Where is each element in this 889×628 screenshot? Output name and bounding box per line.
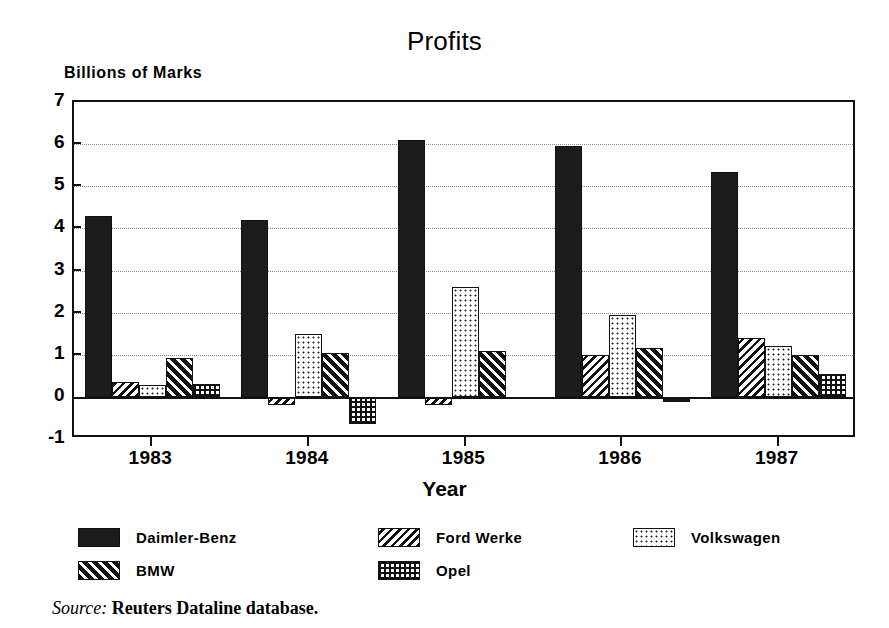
bar-1986-bmw (636, 348, 663, 396)
bar-1984-daimler-benz (241, 220, 268, 397)
source-text: Reuters Dataline database. (107, 598, 318, 618)
y-axis-tick-label: 2 (18, 300, 64, 322)
chart-legend: Daimler-BenzFord WerkeVolkswagenBMWOpel (78, 528, 778, 590)
x-axis-tick-mark (777, 437, 779, 446)
bar-1985-volkswagen (452, 287, 479, 397)
bar-1987-volkswagen (765, 346, 792, 397)
x-axis-tick-label: 1985 (419, 447, 509, 469)
bar-1983-opel (193, 384, 220, 397)
bar-1983-bmw (166, 358, 193, 397)
legend-item-bmw[interactable]: BMW (78, 561, 175, 580)
legend-label: BMW (136, 562, 175, 579)
legend-swatch-icon (78, 528, 120, 547)
bar-1983-ford-werke (112, 382, 139, 397)
y-axis-tick-label: 6 (18, 131, 64, 153)
bar-1987-bmw (792, 355, 819, 397)
source-note: Source: Reuters Dataline database. (52, 598, 318, 619)
bar-1984-volkswagen (295, 334, 322, 397)
legend-swatch-icon (633, 528, 675, 547)
legend-label: Opel (436, 562, 471, 579)
bar-1987-daimler-benz (711, 172, 738, 397)
bar-1987-ford-werke (738, 338, 765, 397)
bar-1985-daimler-benz (398, 140, 425, 397)
legend-label: Volkswagen (691, 529, 781, 546)
y-axis-tick-label: 5 (18, 173, 64, 195)
y-axis-tick-label: 3 (18, 258, 64, 280)
zero-gridline (74, 397, 853, 399)
legend-label: Daimler-Benz (136, 529, 237, 546)
y-axis-tick-label: -1 (18, 426, 64, 448)
bar-1983-volkswagen (139, 385, 166, 397)
x-axis-tick-label: 1987 (732, 447, 822, 469)
y-axis-tick-label: 1 (18, 342, 64, 364)
legend-item-opel[interactable]: Opel (378, 561, 471, 580)
plot-inner (74, 102, 853, 435)
legend-item-daimler-benz[interactable]: Daimler-Benz (78, 528, 237, 547)
x-axis-tick-mark (620, 437, 622, 446)
x-axis-tick-mark (150, 437, 152, 446)
y-axis-tick-label: 7 (18, 89, 64, 111)
y-axis-label: Billions of Marks (64, 64, 202, 82)
legend-item-volkswagen[interactable]: Volkswagen (633, 528, 781, 547)
plot-area (72, 100, 855, 437)
bar-1983-daimler-benz (85, 216, 112, 397)
legend-swatch-icon (78, 561, 120, 580)
bar-1986-daimler-benz (555, 146, 582, 397)
legend-label: Ford Werke (436, 529, 522, 546)
y-axis-tick-label: 0 (18, 384, 64, 406)
bar-1987-opel (819, 374, 846, 397)
x-axis-tick-label: 1984 (262, 447, 352, 469)
legend-swatch-icon (378, 561, 420, 580)
bar-1986-volkswagen (609, 315, 636, 397)
y-axis-tick-label: 4 (18, 215, 64, 237)
source-label: Source: (52, 598, 107, 618)
bar-1986-ford-werke (582, 355, 609, 397)
bar-1984-opel (349, 397, 376, 424)
x-axis-tick-label: 1983 (105, 447, 195, 469)
x-axis-tick-mark (307, 437, 309, 446)
legend-swatch-icon (378, 528, 420, 547)
legend-item-ford-werke[interactable]: Ford Werke (378, 528, 522, 547)
bar-1984-bmw (322, 353, 349, 397)
x-axis-tick-mark (464, 437, 466, 446)
gridline (74, 144, 853, 145)
x-axis-label: Year (0, 477, 889, 501)
chart-title: Profits (0, 26, 889, 57)
bar-1985-bmw (479, 351, 506, 397)
x-axis-tick-label: 1986 (575, 447, 665, 469)
